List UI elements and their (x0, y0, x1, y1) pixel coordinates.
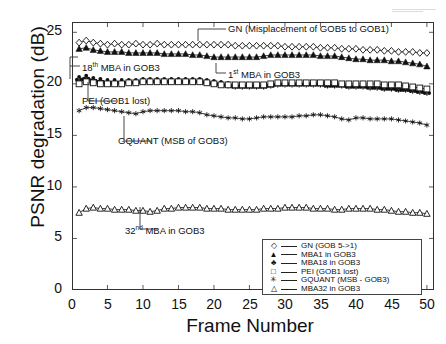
gquant-annotation: GQUANT (MSB of GOB3) (118, 136, 228, 146)
legend-line (281, 272, 297, 273)
x-tick-30: 30 (272, 296, 298, 312)
x-tick-50: 50 (414, 296, 440, 312)
legend-line (281, 280, 297, 281)
x-tick-15: 15 (166, 296, 192, 312)
gn-annotation: GN (Misplacement of GOB5 to GOB1) (228, 24, 389, 34)
corner-watermark (392, 9, 436, 14)
x-tick-5: 5 (95, 296, 121, 312)
y-tick-10: 10 (28, 177, 62, 193)
legend-line (281, 254, 297, 255)
x-tick-45: 45 (379, 296, 405, 312)
legend-line (281, 289, 297, 290)
pei-annotation: PEI (GOB1 lost) (82, 96, 150, 106)
mba32-annotation: 32nd MBA in GOB3 (125, 224, 205, 237)
legend-item: △ MBA32 in GOB3 (267, 285, 418, 294)
chart-figure: PSNR degradation (dB) Frame Number 25 20… (0, 0, 446, 344)
x-tick-25: 25 (237, 296, 263, 312)
legend-symbol-triangle-open: △ (267, 285, 280, 294)
legend-line (281, 246, 297, 247)
x-tick-20: 20 (201, 296, 227, 312)
y-tick-15: 15 (28, 125, 62, 141)
x-tick-0: 0 (59, 296, 85, 312)
y-tick-5: 5 (28, 228, 62, 244)
x-tick-35: 35 (308, 296, 334, 312)
legend-label: MBA32 in GOB3 (301, 285, 360, 294)
y-tick-0: 0 (28, 280, 62, 296)
x-tick-40: 40 (343, 296, 369, 312)
x-tick-10: 10 (130, 296, 156, 312)
legend-line (281, 263, 297, 264)
mba18-annotation: 18th MBA in GOB3 (82, 61, 160, 74)
mba1-annotation: 1st MBA in GOB3 (228, 68, 300, 81)
legend: ◇ GN (GOB 5->1) ▲ MBA1 in GOB3 ♣ MBA18 i… (262, 239, 422, 295)
y-tick-25: 25 (28, 22, 62, 38)
y-tick-20: 20 (28, 73, 62, 89)
x-axis-title: Frame Number (60, 315, 440, 337)
